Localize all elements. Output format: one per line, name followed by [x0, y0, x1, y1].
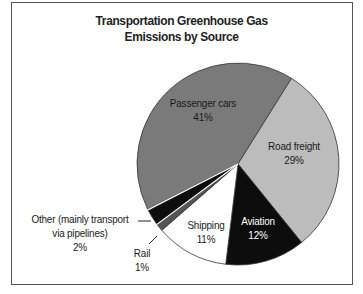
- label-road-freight-name: Road freight: [268, 139, 320, 153]
- label-rail: Rail 1%: [134, 246, 150, 274]
- label-shipping-value: 11%: [187, 232, 224, 246]
- label-aviation-name: Aviation: [241, 214, 275, 228]
- label-road-freight-value: 29%: [268, 153, 320, 167]
- label-rail-value: 1%: [134, 260, 150, 274]
- label-passenger-cars: Passenger cars 41%: [170, 96, 236, 124]
- label-other: Other (mainly transport via pipelines) 2…: [31, 212, 128, 254]
- label-aviation-value: 12%: [241, 228, 275, 242]
- label-other-value: 2%: [31, 240, 128, 254]
- label-aviation: Aviation 12%: [241, 214, 275, 242]
- label-shipping-name: Shipping: [187, 218, 224, 232]
- label-shipping: Shipping 11%: [187, 218, 224, 246]
- label-passenger-cars-value: 41%: [170, 110, 236, 124]
- label-other-name-2: via pipelines): [31, 226, 128, 240]
- rail-leader-line: [149, 236, 157, 244]
- label-passenger-cars-name: Passenger cars: [170, 96, 236, 110]
- label-road-freight: Road freight 29%: [268, 139, 320, 167]
- label-other-name-1: Other (mainly transport: [31, 212, 128, 226]
- label-rail-name: Rail: [134, 246, 150, 260]
